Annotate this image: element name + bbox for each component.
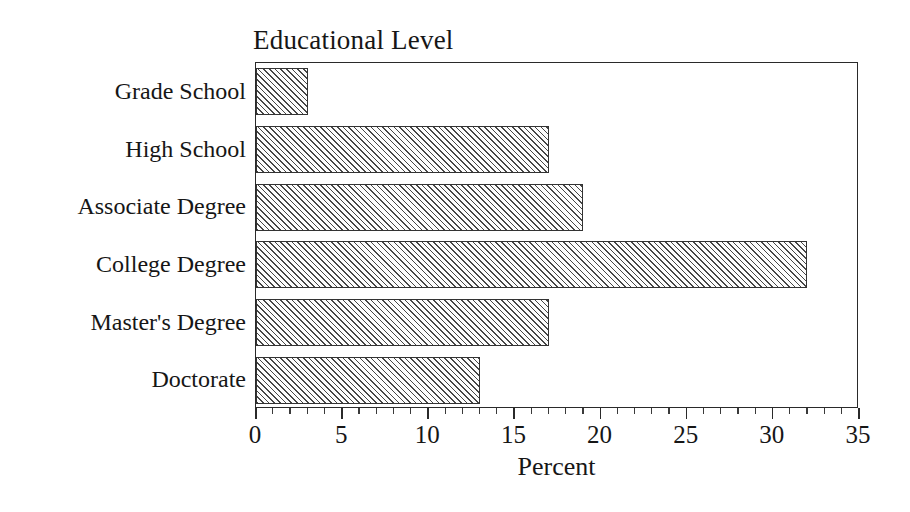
x-tick-minor <box>789 408 790 414</box>
bar[interactable] <box>256 241 807 288</box>
x-tick-minor <box>548 408 549 414</box>
x-tick-major <box>858 408 860 419</box>
x-tick-minor <box>755 408 756 414</box>
bar-band <box>256 236 857 294</box>
x-tick-major <box>772 408 774 419</box>
x-tick-minor <box>582 408 583 414</box>
x-tick-label: 5 <box>335 421 348 449</box>
x-tick-minor <box>737 408 738 414</box>
x-tick-minor <box>272 408 273 414</box>
x-tick-minor <box>410 408 411 414</box>
x-tick-major <box>513 408 515 419</box>
x-tick-major <box>255 408 257 419</box>
x-tick-major <box>686 408 688 419</box>
bar[interactable] <box>256 357 480 404</box>
x-tick-label: 30 <box>759 421 784 449</box>
x-tick-minor <box>376 408 377 414</box>
x-tick-major <box>341 408 343 419</box>
y-axis-label: Master's Degree <box>0 309 246 335</box>
bar[interactable] <box>256 184 583 231</box>
bar-band <box>256 63 857 121</box>
y-axis-label: Doctorate <box>0 366 246 392</box>
x-tick-minor <box>324 408 325 414</box>
x-tick-minor <box>565 408 566 414</box>
x-tick-minor <box>668 408 669 414</box>
x-tick-minor <box>307 408 308 414</box>
x-tick-minor <box>806 408 807 414</box>
x-tick-minor <box>703 408 704 414</box>
x-tick-minor <box>634 408 635 414</box>
plot-area <box>255 62 858 408</box>
x-tick-label: 35 <box>846 421 871 449</box>
x-tick-minor <box>445 408 446 414</box>
bar[interactable] <box>256 126 549 173</box>
y-axis-label: Associate Degree <box>0 193 246 219</box>
x-tick-label: 10 <box>415 421 440 449</box>
chart-title: Educational Level <box>253 24 454 56</box>
x-tick-minor <box>617 408 618 414</box>
x-tick-major <box>427 408 429 419</box>
x-tick-label: 15 <box>501 421 526 449</box>
x-tick-minor <box>479 408 480 414</box>
x-tick-minor <box>462 408 463 414</box>
bar-band <box>256 121 857 179</box>
y-axis-label: Grade School <box>0 78 246 104</box>
y-axis-label: College Degree <box>0 251 246 277</box>
x-tick-minor <box>651 408 652 414</box>
x-tick-minor <box>496 408 497 414</box>
x-tick-major <box>600 408 602 419</box>
x-tick-minor <box>720 408 721 414</box>
x-tick-minor <box>824 408 825 414</box>
y-axis-category-labels: Grade SchoolHigh SchoolAssociate DegreeC… <box>0 62 246 408</box>
x-tick-label: 20 <box>587 421 612 449</box>
x-tick-minor <box>841 408 842 414</box>
x-tick-minor <box>393 408 394 414</box>
x-tick-label: 25 <box>673 421 698 449</box>
x-tick-label: 0 <box>249 421 262 449</box>
y-axis-label: High School <box>0 136 246 162</box>
bar-band <box>256 178 857 236</box>
bar[interactable] <box>256 299 549 346</box>
x-tick-minor <box>358 408 359 414</box>
x-axis-title: Percent <box>255 452 858 482</box>
bars-layer <box>256 63 857 407</box>
bar-chart-figure: Educational Level Grade SchoolHigh Schoo… <box>0 0 910 512</box>
bar[interactable] <box>256 68 308 115</box>
x-tick-minor <box>289 408 290 414</box>
bar-band <box>256 351 857 409</box>
x-tick-minor <box>531 408 532 414</box>
bar-band <box>256 294 857 352</box>
